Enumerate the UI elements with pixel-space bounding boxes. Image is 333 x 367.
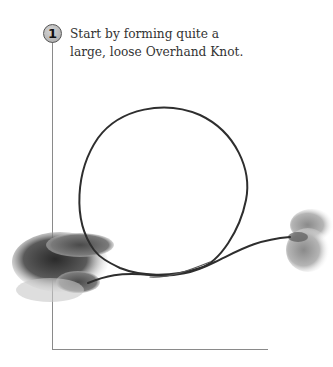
instruction-line-1: Start by forming quite a [70,25,270,43]
right-hand [286,209,333,272]
instruction-line-2: large, loose Overhand Knot. [70,43,270,61]
left-hand [0,225,114,315]
step-instruction: Start by forming quite a large, loose Ov… [70,25,270,61]
step-number-badge: 1 [43,24,62,43]
step-number: 1 [48,26,57,41]
cord [79,108,290,283]
